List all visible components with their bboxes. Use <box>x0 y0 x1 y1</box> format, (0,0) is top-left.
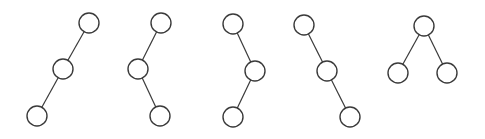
tree-edge <box>428 35 442 64</box>
tree-right-right-chain <box>294 15 360 127</box>
tree-node <box>437 63 457 83</box>
tree-edge <box>237 80 250 108</box>
tree-node <box>317 61 337 81</box>
tree-node <box>150 106 170 126</box>
tree-edge <box>142 32 156 60</box>
tree-node <box>27 106 47 126</box>
tree-edge <box>403 35 419 64</box>
tree-left-left-chain <box>27 13 99 126</box>
tree-root-node <box>294 15 314 35</box>
tree-balanced <box>388 16 457 83</box>
tree-right-left-zigzag <box>223 14 265 127</box>
tree-edge <box>308 34 322 62</box>
tree-edge <box>237 33 251 62</box>
tree-node <box>245 61 265 81</box>
tree-left-right-zigzag <box>128 13 171 126</box>
tree-root-node <box>151 13 171 33</box>
tree-node <box>128 59 148 79</box>
tree-edge <box>68 32 84 61</box>
tree-root-node <box>79 13 99 33</box>
tree-node <box>388 63 408 83</box>
tree-node <box>53 59 73 79</box>
tree-node <box>340 107 360 127</box>
binary-trees-diagram <box>0 0 485 139</box>
tree-edge <box>142 78 156 107</box>
tree-edge <box>42 78 58 107</box>
tree-root-node <box>414 16 434 36</box>
tree-node <box>223 107 243 127</box>
tree-root-node <box>223 14 243 34</box>
tree-edge <box>331 80 345 108</box>
